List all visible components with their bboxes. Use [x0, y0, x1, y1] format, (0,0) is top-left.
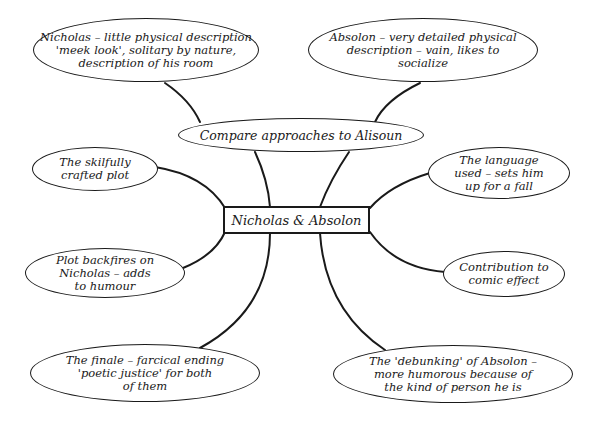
node-label: Contribution to comic effect: [459, 261, 549, 287]
node-debunking-absolon: The 'debunking' of Absolon – more humoro…: [333, 345, 573, 403]
node-label: The language used – sets him up for a fa…: [454, 154, 543, 193]
node-label: Nicholas – little physical description '…: [40, 31, 252, 70]
node-comic-effect: Contribution to comic effect: [443, 251, 565, 297]
node-label: The 'debunking' of Absolon – more humoro…: [369, 355, 537, 394]
node-hub-compare-alisoun: Compare approaches to Alisoun: [178, 118, 424, 152]
node-label: The finale – farcical ending 'poetic jus…: [66, 354, 224, 393]
node-plot-backfires: Plot backfires on Nicholas – adds to hum…: [25, 248, 185, 298]
node-label: Plot backfires on Nicholas – adds to hum…: [56, 254, 154, 293]
center-node-nicholas-absolon: Nicholas & Absolon: [223, 206, 370, 234]
node-language-used: The language used – sets him up for a fa…: [428, 147, 570, 199]
center-label: Nicholas & Absolon: [232, 214, 362, 227]
node-label: The skilfully crafted plot: [59, 156, 130, 182]
hub-label: Compare approaches to Alisoun: [200, 129, 403, 142]
node-nicholas-description: Nicholas – little physical description '…: [33, 18, 259, 82]
node-skilfully-crafted-plot: The skilfully crafted plot: [32, 147, 158, 191]
node-finale: The finale – farcical ending 'poetic jus…: [30, 344, 260, 402]
node-label: Absolon – very detailed physical descrip…: [329, 31, 516, 70]
node-absolon-description: Absolon – very detailed physical descrip…: [308, 18, 538, 82]
